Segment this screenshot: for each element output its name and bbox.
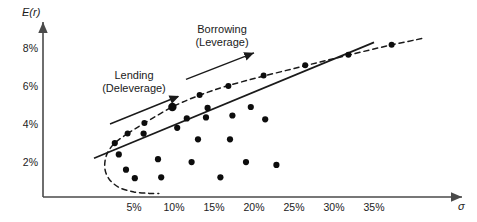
x-tick-label: 30% xyxy=(321,201,347,213)
borrowing-label-line1: Borrowing xyxy=(177,23,267,36)
x-tick-label: 25% xyxy=(281,201,307,213)
asset-point xyxy=(217,174,223,180)
asset-point xyxy=(184,115,190,121)
asset-point xyxy=(273,162,279,168)
asset-point xyxy=(205,105,211,111)
efficient-frontier-group xyxy=(105,39,422,194)
asset-point xyxy=(158,174,164,180)
frontier-point xyxy=(389,42,395,48)
x-tick-label: 15% xyxy=(201,201,227,213)
x-axis-title: σ xyxy=(458,200,465,212)
x-tick-label: 10% xyxy=(161,201,187,213)
borrowing-label-line2: (Leverage) xyxy=(177,36,267,49)
tangency-portfolio-point xyxy=(168,103,176,111)
asset-point xyxy=(189,159,195,165)
asset-point xyxy=(116,151,122,157)
scatter-chart: E(r) σ 5%10%15%20%25%30%35% 2%4%6%8% Len… xyxy=(0,0,477,222)
borrowing-annotation-label: Borrowing (Leverage) xyxy=(177,23,267,49)
asset-point xyxy=(141,131,147,137)
asset-point xyxy=(248,104,254,110)
lending-label-line2: (Deleverage) xyxy=(89,82,179,95)
frontier-point xyxy=(302,62,308,68)
frontier-point xyxy=(345,52,351,58)
y-tick-label: 4% xyxy=(14,118,38,130)
asset-point xyxy=(195,136,201,142)
asset-point xyxy=(243,159,249,165)
asset-point xyxy=(123,167,129,173)
asset-point xyxy=(262,116,268,122)
borrowing-arrow xyxy=(186,53,254,80)
x-tick-label: 20% xyxy=(241,201,267,213)
asset-point xyxy=(227,136,233,142)
x-tick-label: 35% xyxy=(361,201,387,213)
asset-point xyxy=(229,112,235,118)
frontier-point xyxy=(261,73,267,79)
frontier-point xyxy=(125,131,131,137)
y-tick-label: 2% xyxy=(14,156,38,168)
lending-annotation-label: Lending (Deleverage) xyxy=(89,69,179,95)
frontier-point xyxy=(225,83,231,89)
frontier-point xyxy=(141,120,147,126)
y-axis-title: E(r) xyxy=(22,6,40,18)
asset-point xyxy=(155,156,161,162)
y-tick-label: 8% xyxy=(14,42,38,54)
asset-point xyxy=(112,140,118,146)
capital-allocation-line xyxy=(94,42,374,158)
y-tick-label: 6% xyxy=(14,80,38,92)
asset-point xyxy=(203,114,209,120)
lending-label-line1: Lending xyxy=(89,69,179,82)
lending-arrow xyxy=(110,97,178,125)
asset-point xyxy=(132,175,138,181)
x-tick-label: 5% xyxy=(121,201,147,213)
asset-point xyxy=(174,125,180,131)
frontier-point xyxy=(197,92,203,98)
